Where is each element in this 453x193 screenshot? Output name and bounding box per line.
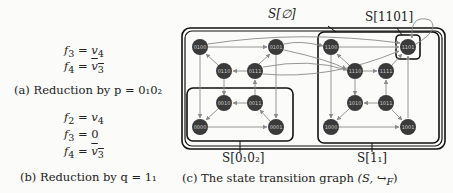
label-top-right: S[1101]	[365, 10, 413, 24]
svg-text:1100: 1100	[325, 44, 338, 50]
svg-text:0100: 0100	[194, 44, 207, 50]
svg-text:0000: 0000	[194, 124, 207, 130]
label-outer: S[∅]	[268, 7, 296, 21]
svg-text:1110: 1110	[349, 68, 362, 74]
svg-text:1001: 1001	[402, 124, 415, 130]
label-bottom-left: S[0₁0₂]	[222, 151, 264, 165]
svg-text:1111: 1111	[380, 68, 393, 74]
svg-text:1101: 1101	[402, 44, 415, 50]
label-right: S[1₁]	[357, 151, 387, 165]
nodes: 0100 0101 0110 0111 0010 0011 0000 0001 …	[192, 39, 416, 135]
svg-text:0001: 0001	[270, 124, 283, 130]
caption-c: (c) The state transition graph (S, ↪F)	[182, 171, 398, 187]
svg-text:1000: 1000	[325, 124, 338, 130]
svg-text:0010: 0010	[218, 100, 231, 106]
svg-text:0111: 0111	[249, 68, 262, 74]
svg-text:0110: 0110	[218, 68, 231, 74]
svg-text:1011: 1011	[380, 100, 393, 106]
svg-text:0011: 0011	[249, 100, 262, 106]
svg-text:0101: 0101	[270, 44, 283, 50]
svg-text:1010: 1010	[349, 100, 362, 106]
